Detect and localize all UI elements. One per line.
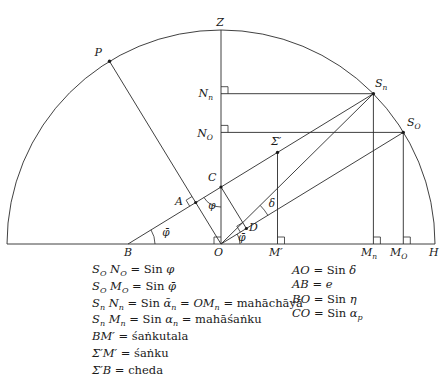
legend-eq-AO: AO = Sin δ <box>292 263 363 277</box>
right-angle-marker-Nn <box>221 87 228 94</box>
label-SO: SO <box>407 116 421 131</box>
right-angle-markers <box>186 87 410 244</box>
legend-eq-cheda: Σ′B = cheda <box>92 362 303 379</box>
point-C <box>219 185 222 188</box>
label-Sn: Sn <box>375 77 388 92</box>
celestial-sphere-diagram: Z P Sn SO Nn NO Σ′ C A B O D M′ Mn MO H … <box>0 0 445 385</box>
legend-eq-CO: CO = Sin αp <box>292 306 363 320</box>
legend-eq-SoNo: SO NO = Sin φ <box>92 261 303 278</box>
label-C: C <box>208 171 217 184</box>
legend-right-column: AO = Sin δ AB = e BO = Sin η CO = Sin αp <box>292 263 363 321</box>
legend-left-column: SO NO = Sin φ SO MO = Sin φ̄ Sn Nn = Sin… <box>92 261 303 379</box>
label-B: B <box>123 246 132 259</box>
legend-eq-sankutala: BM′ = śaṅkutala <box>92 328 303 345</box>
point-D <box>245 227 248 230</box>
legend-eq-sanku: Σ′M′ = śaṅku <box>92 345 303 362</box>
legend-eq-AB: AB = e <box>292 277 363 291</box>
label-P: P <box>94 46 103 59</box>
right-angle-marker-Mprime <box>278 237 285 244</box>
right-angle-marker-NO <box>221 125 228 132</box>
point-sigma-prime <box>276 151 279 154</box>
label-NO: NO <box>196 127 213 142</box>
point-Sn <box>372 92 375 95</box>
angle-arc-phibar-B <box>151 230 155 244</box>
right-angle-marker-MO <box>403 237 410 244</box>
angle-arc-delta-O <box>260 205 268 215</box>
point-dots <box>108 60 405 231</box>
point-P <box>108 60 111 63</box>
point-A <box>194 201 197 204</box>
C-D-perpendicular <box>221 187 246 229</box>
angle-label-phi-C: φ <box>208 199 216 211</box>
label-O: O <box>214 246 223 259</box>
label-D: D <box>248 221 258 234</box>
legend-eq-BO: BO = Sin η <box>292 292 363 306</box>
construction-lines <box>7 30 435 244</box>
label-Nn: Nn <box>198 87 214 102</box>
point-labels: Z P Sn SO Nn NO Σ′ C A B O D M′ Mn MO H <box>94 16 439 261</box>
label-Z: Z <box>215 16 224 29</box>
right-angle-marker-Mn <box>373 237 380 244</box>
angle-label-phibar-O: φ̄ <box>238 231 246 243</box>
label-A: A <box>174 195 183 208</box>
angle-label-delta: δ <box>269 197 275 209</box>
right-angle-marker-A <box>186 197 192 207</box>
angle-label-phibar-B: φ̄ <box>162 226 170 238</box>
label-Mn: Mn <box>360 246 377 261</box>
legend-eq-mahachaya: Sn Nn = Sin ᾱn = OMn = mahāchāyā <box>92 295 303 312</box>
label-M-prime: M′ <box>268 246 283 259</box>
label-sigma-prime: Σ′ <box>270 135 282 148</box>
label-MO: MO <box>389 246 407 261</box>
point-SO <box>402 131 405 134</box>
legend-eq-mahasanku: Sn Mn = Sin αn = mahāśaṅku <box>92 311 303 328</box>
legend-eq-SoMo: SO MO = Sin φ̄ <box>92 278 303 295</box>
label-H: H <box>428 246 439 259</box>
O-Sn-line <box>221 94 373 244</box>
